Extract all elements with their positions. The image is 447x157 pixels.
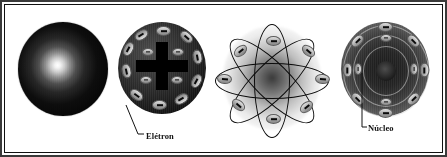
electron-icon <box>140 76 152 84</box>
callout-nucleo: Núcleo <box>354 72 426 136</box>
electron-icon <box>142 48 154 56</box>
electron-icon <box>378 22 393 32</box>
electron-icon <box>343 63 353 78</box>
electron-icon <box>266 36 281 46</box>
callout-label-nucleo: Núcleo <box>368 123 394 133</box>
electron-icon <box>266 114 281 124</box>
figure-stage: Elétron Núcleo <box>6 6 441 151</box>
model-dalton <box>14 20 112 120</box>
callout-label-eletron: Elétron <box>146 131 174 141</box>
model-rutherford <box>211 10 331 150</box>
dalton-solid-sphere <box>18 22 108 116</box>
electron-icon <box>380 34 392 42</box>
electron-icon <box>156 26 171 36</box>
electron-icon <box>171 76 183 84</box>
atomic-models-figure: Elétron Núcleo <box>0 0 447 157</box>
electron-icon <box>172 48 184 56</box>
callout-eletron: Elétron <box>124 104 202 146</box>
